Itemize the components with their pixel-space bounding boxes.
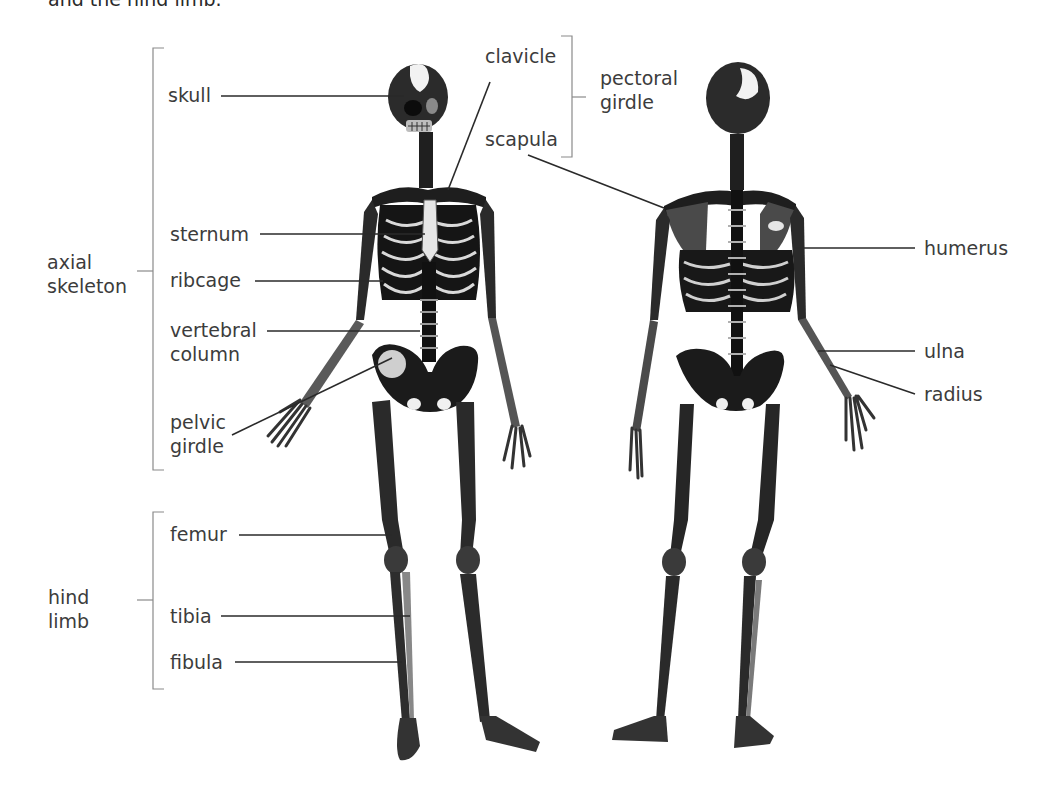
group-label-hind-limb: hind limb bbox=[48, 585, 89, 633]
pectoral-bracket bbox=[561, 36, 572, 157]
label-ribcage: ribcage bbox=[170, 268, 241, 292]
label-scapula: scapula bbox=[485, 127, 558, 151]
group-label-axial-skeleton: axial skeleton bbox=[47, 250, 127, 298]
label-vertebral-line2: column bbox=[170, 342, 257, 366]
label-fibula: fibula bbox=[170, 650, 223, 674]
label-femur: femur bbox=[170, 522, 227, 546]
label-ulna: ulna bbox=[924, 339, 965, 363]
group-label-hind-line1: hind bbox=[48, 585, 89, 609]
label-clavicle: clavicle bbox=[485, 44, 556, 68]
skeleton-diagram bbox=[0, 0, 1053, 789]
vertebral-column-icon bbox=[420, 262, 438, 362]
front-skeleton-figure bbox=[268, 64, 540, 760]
group-label-pectoral-girdle: pectoral girdle bbox=[600, 66, 678, 114]
label-pelvic-girdle: pelvic girdle bbox=[170, 410, 226, 458]
skull-icon bbox=[388, 64, 448, 132]
group-label-axial-line2: skeleton bbox=[47, 274, 127, 298]
label-sternum: sternum bbox=[170, 222, 249, 246]
front-right-leg bbox=[456, 402, 540, 752]
front-left-leg bbox=[372, 400, 420, 760]
front-right-arm bbox=[480, 200, 530, 468]
label-vertebral-column: vertebral column bbox=[170, 318, 257, 366]
label-tibia: tibia bbox=[170, 604, 212, 628]
label-radius: radius bbox=[924, 382, 983, 406]
label-pelvic-line1: pelvic bbox=[170, 410, 226, 434]
axial-bracket bbox=[153, 48, 164, 470]
group-label-hind-line2: limb bbox=[48, 609, 89, 633]
group-label-axial-line1: axial bbox=[47, 250, 127, 274]
label-skull: skull bbox=[168, 83, 211, 107]
group-label-pectoral-line2: girdle bbox=[600, 90, 678, 114]
label-vertebral-line1: vertebral bbox=[170, 318, 257, 342]
label-humerus: humerus bbox=[924, 236, 1008, 260]
back-skeleton-figure bbox=[612, 62, 874, 748]
hind-bracket bbox=[153, 512, 164, 689]
group-label-pectoral-line1: pectoral bbox=[600, 66, 678, 90]
label-pelvic-line2: girdle bbox=[170, 434, 226, 458]
